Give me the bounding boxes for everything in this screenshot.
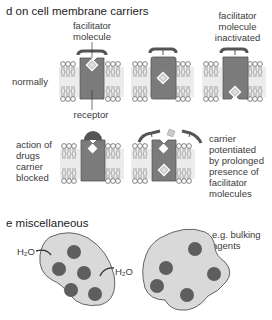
- diagram-graphics: [0, 0, 272, 320]
- carrier-normal-middle: [131, 49, 194, 101]
- carrier-inactivated: [202, 49, 266, 101]
- carrier-normal-bound: [59, 42, 124, 110]
- cell-left: [36, 233, 115, 306]
- carrier-blocked: [60, 131, 124, 183]
- carrier-potentiated: [131, 129, 201, 183]
- cell-right: [143, 229, 230, 310]
